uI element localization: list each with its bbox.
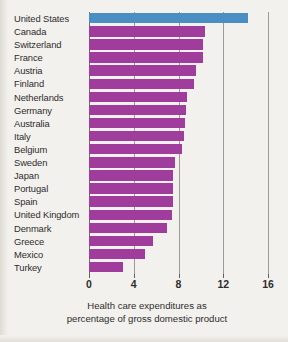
bar [89, 144, 182, 154]
bar [89, 39, 203, 49]
bar [89, 223, 167, 233]
bar-chart: United StatesCanadaSwitzerlandFranceAust… [0, 0, 288, 300]
bar-row [89, 117, 268, 130]
category-label: Turkey [14, 261, 86, 274]
bar-row [89, 38, 268, 51]
category-label: Switzerland [14, 38, 86, 51]
bar [89, 131, 184, 141]
bar [89, 92, 187, 102]
bar [89, 79, 194, 89]
bar [89, 52, 203, 62]
tick-label-12: 12 [211, 278, 235, 290]
category-label: Canada [14, 25, 86, 38]
category-label: Spain [14, 195, 86, 208]
bar-row [89, 208, 268, 221]
bar-row [89, 51, 268, 64]
category-label: Mexico [14, 248, 86, 261]
bar [89, 105, 186, 115]
bar [89, 249, 145, 259]
tick-label-4: 4 [122, 278, 146, 290]
gridline-16 [268, 12, 269, 274]
bar [89, 157, 175, 167]
bar-row [89, 195, 268, 208]
bar [89, 210, 172, 220]
bar-row [89, 143, 268, 156]
bar [89, 13, 248, 23]
chart-caption: Health care expenditures as percentage o… [24, 300, 270, 325]
category-label: Sweden [14, 156, 86, 169]
category-label: United States [14, 12, 86, 25]
bar [89, 262, 123, 272]
bar [89, 183, 173, 193]
bar-row [89, 64, 268, 77]
bar-row [89, 261, 268, 274]
category-label: Italy [14, 130, 86, 143]
bar [89, 196, 173, 206]
figure-container: United StatesCanadaSwitzerlandFranceAust… [0, 0, 288, 342]
category-label: United Kingdom [14, 208, 86, 221]
category-label: Finland [14, 77, 86, 90]
bar-row [89, 169, 268, 182]
bar-row [89, 248, 268, 261]
plot-area [89, 12, 268, 274]
page-edge-shading-bottom [0, 335, 288, 342]
category-label: Belgium [14, 143, 86, 156]
category-label: Portugal [14, 182, 86, 195]
caption-line-1: Health care expenditures as [24, 300, 270, 313]
bar-row [89, 25, 268, 38]
bar-row [89, 156, 268, 169]
tick-label-16: 16 [256, 278, 280, 290]
bar [89, 236, 153, 246]
bar [89, 65, 196, 75]
bar-row [89, 235, 268, 248]
category-label: Greece [14, 235, 86, 248]
category-label: Germany [14, 104, 86, 117]
category-label: Netherlands [14, 91, 86, 104]
bar [89, 118, 185, 128]
bar [89, 170, 173, 180]
category-label: Japan [14, 169, 86, 182]
tick-label-8: 8 [167, 278, 191, 290]
bar-row [89, 91, 268, 104]
bar-row [89, 12, 268, 25]
bar [89, 26, 205, 36]
x-axis-tick-labels: 0481216 [0, 278, 288, 292]
category-label: Denmark [14, 222, 86, 235]
category-label: Austria [14, 64, 86, 77]
category-axis-labels: United StatesCanadaSwitzerlandFranceAust… [14, 12, 86, 274]
bar-row [89, 222, 268, 235]
bar-row [89, 104, 268, 117]
caption-line-2: percentage of gross domestic product [24, 313, 270, 326]
category-label: France [14, 51, 86, 64]
tick-label-0: 0 [77, 278, 101, 290]
category-label: Australia [14, 117, 86, 130]
bar-row [89, 77, 268, 90]
bar-row [89, 182, 268, 195]
bar-row [89, 130, 268, 143]
